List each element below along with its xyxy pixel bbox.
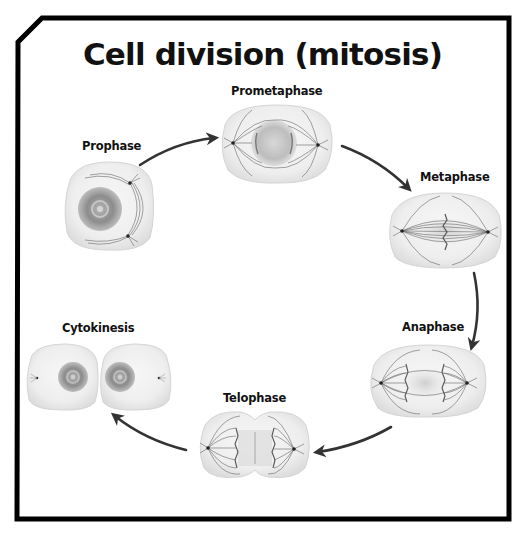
label-telophase: Telophase [223,391,286,405]
label-metaphase: Metaphase [420,170,490,184]
centrosome-icon [465,381,469,385]
label-prophase: Prophase [82,139,141,153]
centrosome-icon [231,141,235,145]
prophase-cell [65,162,154,250]
centrosome-icon [486,230,490,234]
diagram-title: Cell division (mitosis) [0,36,525,72]
anaphase-cell [371,345,486,417]
label-anaphase: Anaphase [402,320,464,334]
centrosome-icon [128,181,132,185]
centrosome-icon [292,447,296,451]
centrosome-icon [379,381,383,385]
metaphase-cell [390,193,502,268]
daughter-cell-left [27,344,98,410]
telophase-cell [200,412,309,478]
prometaphase-cell [222,105,332,183]
daughter-cell-right [101,344,171,410]
centrosome-icon [126,234,130,238]
centrosome-icon [316,143,320,147]
centrosome-icon [400,229,404,233]
label-prometaphase: Prometaphase [231,84,322,98]
label-cytokinesis: Cytokinesis [62,321,134,335]
centrosome-icon [206,446,210,450]
mitosis-diagram: Cell division (mitosis) Prophase Prometa… [0,0,525,537]
